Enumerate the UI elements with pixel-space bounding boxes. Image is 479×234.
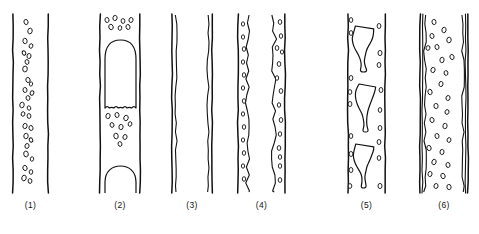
bubble [27, 53, 32, 59]
bubble [278, 155, 281, 160]
bubble [121, 18, 125, 23]
bubble [242, 73, 245, 78]
bubble [30, 156, 34, 161]
liquid-film-right [272, 15, 277, 192]
bubble [277, 146, 281, 151]
bubble [439, 81, 444, 87]
panel-label-3: (3) [172, 200, 212, 210]
bubble [241, 35, 244, 39]
bubble [444, 70, 448, 75]
panel-label-2: (2) [100, 200, 140, 210]
bubble [431, 159, 437, 165]
bubble [241, 22, 244, 26]
bubble [28, 125, 33, 131]
bubble [435, 133, 440, 139]
bubble [113, 133, 118, 139]
bubble [25, 59, 30, 65]
bubble [446, 37, 451, 43]
bubble [22, 165, 28, 171]
bubble [242, 177, 245, 182]
tube-wall-right [385, 14, 386, 193]
tube-wall-left-inner [422, 14, 423, 193]
bubble [447, 184, 452, 190]
bubble [445, 95, 450, 101]
bubble [378, 183, 382, 188]
bubble [279, 89, 283, 94]
bubble [349, 18, 353, 23]
bubble [432, 19, 437, 25]
bubble [27, 105, 32, 110]
gas-blob [355, 84, 375, 132]
bubble [441, 27, 446, 33]
bubble [349, 152, 353, 157]
bubble [24, 143, 29, 149]
bubble [241, 60, 244, 64]
liquid-film-right [462, 15, 465, 192]
bubble [348, 90, 352, 95]
bubble [447, 137, 452, 143]
bubble [275, 46, 279, 51]
bubble [23, 87, 28, 93]
bubble [29, 90, 34, 96]
bubble [115, 112, 120, 118]
bubble [348, 102, 352, 107]
bubble [434, 103, 439, 109]
bubble [444, 109, 449, 115]
tube-wall-right [48, 14, 49, 193]
bubble [429, 33, 434, 39]
bubble [123, 115, 129, 121]
bubble [22, 123, 27, 129]
tube-wall-right [140, 14, 141, 193]
bubble [378, 126, 382, 131]
liquid-film-left [245, 15, 249, 192]
bubble [278, 164, 281, 169]
bubble [425, 45, 430, 51]
liquid-film-left [175, 15, 177, 192]
bubble [118, 141, 123, 147]
bubble [279, 34, 282, 39]
bubble [279, 118, 283, 123]
bubble [377, 63, 381, 68]
bubble [26, 95, 31, 100]
bubble [105, 17, 110, 23]
bubble [426, 145, 431, 151]
bubble [435, 44, 440, 50]
panel-6-dispersed-bubble-flow [420, 14, 469, 193]
bubble [23, 133, 28, 139]
panel-label-5: (5) [347, 200, 387, 210]
flow-regime-figure: (1)(2)(3)(4)(5)(6) [0, 0, 479, 234]
tube-wall-right [285, 14, 286, 193]
bubble [242, 151, 245, 156]
bubble [29, 170, 33, 175]
tube-wall-right [212, 14, 213, 193]
bubble [29, 137, 34, 142]
panel-5-churn-flow [348, 14, 386, 193]
bubble [377, 24, 381, 29]
panel-label-6: (6) [424, 200, 464, 210]
bubble [449, 54, 455, 60]
bubble [128, 17, 133, 23]
bubble [427, 89, 432, 95]
bubble [128, 121, 133, 126]
cap-bubble [105, 166, 136, 193]
bubble [278, 132, 281, 137]
bubble [377, 140, 381, 145]
tube-wall-left [172, 14, 173, 193]
bubble [22, 66, 27, 72]
bubble [440, 173, 446, 180]
panel-label-4: (4) [242, 200, 282, 210]
bubble [349, 31, 353, 36]
bubble [280, 50, 283, 54]
bubble [27, 28, 32, 34]
tube-wall-right [468, 14, 469, 193]
tube-wall-left [420, 14, 421, 193]
bubble [21, 111, 26, 116]
panel-4-wavy-annular-flow [238, 14, 286, 193]
bubble [349, 76, 353, 81]
bubble [27, 113, 31, 118]
bubble [430, 67, 435, 73]
bubble [112, 15, 117, 21]
panel-label-1: (1) [11, 200, 51, 210]
bubble [21, 175, 27, 182]
gas-blob [352, 26, 373, 72]
